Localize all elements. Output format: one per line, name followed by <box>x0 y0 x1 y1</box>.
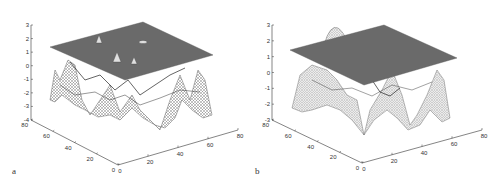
tick-label: 0 <box>118 168 122 174</box>
tick-label: 60 <box>43 133 50 139</box>
tick-label: 40 <box>177 151 184 157</box>
tick-label: 80 <box>262 122 269 128</box>
tick-label: -2 <box>265 101 271 107</box>
tick-label: -1 <box>24 76 30 82</box>
z-axis-b: 3210-1-2-3 <box>265 22 274 123</box>
surface-plot-b: 3210-1-2-3 806040200 020406080 <box>252 0 504 182</box>
panel-a: 3210-1-2-3-4 806040200 020406080 <box>0 0 252 182</box>
z-axis-a: 3210-1-2-3-4 <box>24 22 33 123</box>
tick-label: 60 <box>451 141 458 147</box>
figure: 3210-1-2-3-4 806040200 020406080 <box>0 0 504 182</box>
tick-label: 0 <box>112 167 116 173</box>
panel-b: 3210-1-2-3 806040200 020406080 b <box>252 0 504 182</box>
tick-label: 20 <box>330 154 337 160</box>
tick-label: -2 <box>24 90 30 96</box>
tick-label: 2 <box>26 36 30 42</box>
tick-label: 80 <box>21 122 28 128</box>
tick-label: 40 <box>307 144 314 150</box>
tick-label: 20 <box>391 158 398 164</box>
tick-label: -3 <box>24 103 30 109</box>
tick-label: 0 <box>362 166 366 172</box>
tick-label: 0 <box>26 63 30 69</box>
tick-label: 1 <box>267 54 271 60</box>
tick-label: 2 <box>267 38 271 44</box>
tick-label: 20 <box>87 156 94 162</box>
tick-label: 40 <box>65 145 72 151</box>
panel-label-a: a <box>12 166 16 176</box>
tick-label: 3 <box>26 22 30 28</box>
tick-label: 60 <box>285 133 292 139</box>
tick-label: 0 <box>356 165 360 171</box>
tick-label: 80 <box>237 133 244 139</box>
surface-plot-a: 3210-1-2-3-4 806040200 020406080 <box>0 0 252 182</box>
tick-label: 1 <box>26 49 30 55</box>
tick-label: 0 <box>267 70 271 76</box>
tick-label: 40 <box>421 150 428 156</box>
tick-label: 20 <box>147 159 154 165</box>
tick-label: 80 <box>481 133 488 139</box>
tick-label: 60 <box>207 142 214 148</box>
tick-label: 3 <box>267 22 271 28</box>
tick-label: -1 <box>265 85 271 91</box>
panel-label-b: b <box>255 166 260 176</box>
